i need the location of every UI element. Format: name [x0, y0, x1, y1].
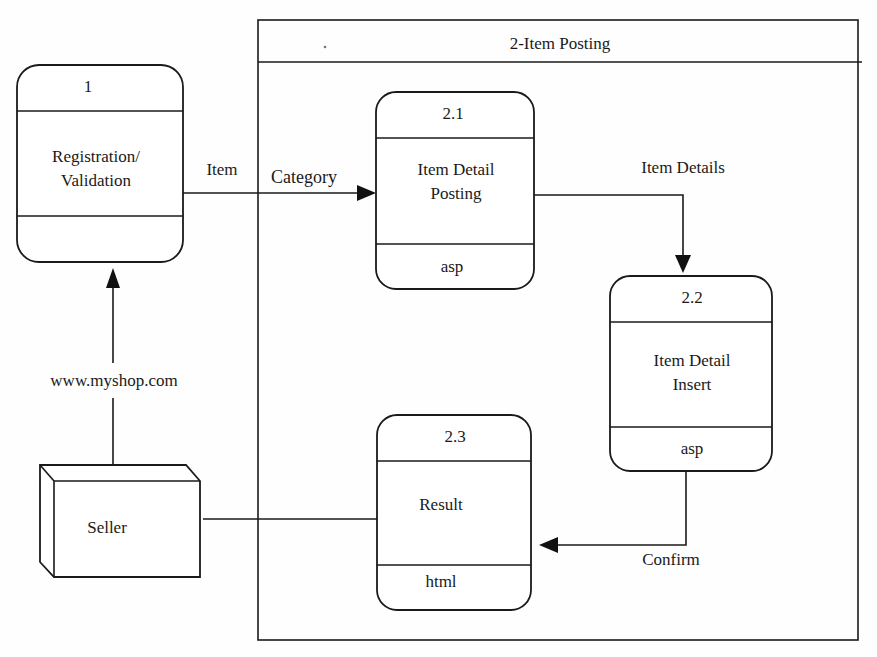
flow-label-category: Category: [271, 166, 337, 188]
flow-label-url: www.myshop.com: [50, 370, 177, 392]
diagram-canvas: [0, 0, 877, 657]
process-1-name: Registration/ Validation: [52, 145, 140, 193]
process-2-2-name: Item Detail Insert: [654, 349, 731, 397]
seller-entity-label: Seller: [87, 517, 127, 539]
process-2-2-id: 2.2: [681, 287, 702, 309]
flow-insert-to-result: [539, 471, 686, 553]
process-2-1-tech: asp: [441, 256, 464, 278]
process-2-3-name: Result: [419, 494, 462, 516]
flow-label-item-details: Item Details: [641, 157, 725, 179]
flow-label-item: Item: [206, 159, 237, 181]
process-2-3-id: 2.3: [444, 426, 465, 448]
flow-seller-to-registration: [106, 268, 120, 465]
process-2-1-name: Item Detail Posting: [418, 158, 495, 206]
flow-label-confirm: Confirm: [642, 549, 700, 571]
process-1-id: 1: [84, 76, 93, 98]
flow-posting-to-insert: [534, 195, 691, 273]
process-2-2-tech: asp: [681, 438, 704, 460]
process-2-1-id: 2.1: [442, 103, 463, 125]
process-2-3-tech: html: [425, 571, 456, 593]
subsystem-title: 2-Item Posting: [510, 33, 611, 55]
data-flow-diagram: 2-Item Posting 1 Registration/ Validatio…: [0, 0, 877, 657]
